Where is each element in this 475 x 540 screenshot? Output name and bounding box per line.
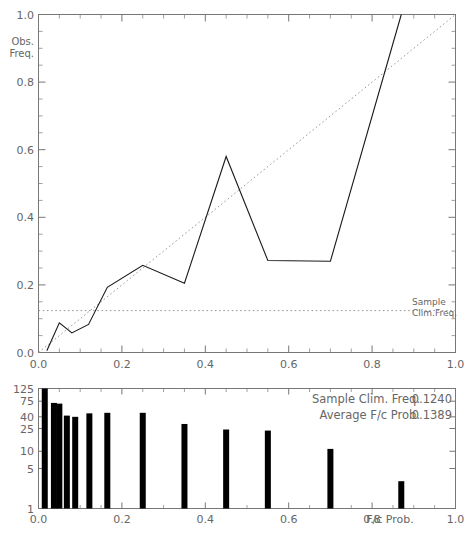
lower-major-ticks — [39, 389, 456, 509]
lower-plot-frame — [39, 389, 456, 509]
upper-ytick-label: 1.0 — [17, 9, 35, 22]
lower-ytick-label: 5 — [27, 463, 34, 476]
lower-xtick-label: 0.4 — [197, 513, 215, 526]
histogram-bar — [265, 431, 271, 509]
histogram-bar — [64, 416, 70, 509]
upper-xtick-labels: 0.00.20.40.60.81.0 — [30, 358, 465, 371]
stat-average-fc-prob-value: 0.1389 — [412, 408, 452, 422]
histogram-bar — [86, 413, 92, 508]
lower-ytick-labels: 1510254075125 — [13, 383, 34, 516]
reliability-curve — [47, 15, 401, 351]
lower-panel: 1510254075125 0.00.20.40.60.81.0 F/c Pro… — [13, 383, 464, 527]
upper-xtick-label: 0.0 — [30, 358, 48, 371]
upper-xtick-label: 0.8 — [363, 358, 381, 371]
upper-ytick-label: 0.2 — [17, 279, 35, 292]
lower-ytick-label: 10 — [20, 445, 34, 458]
histogram-bar — [140, 413, 146, 509]
histogram-bar — [398, 481, 404, 508]
upper-ytick-labels: 0.00.20.40.60.81.0 — [17, 9, 35, 360]
stat-sample-clim-freq-value: 0.1240 — [412, 392, 452, 406]
reliability-diagram-figure: 0.00.20.40.60.81.0 0.00.20.40.60.81.0 Ob… — [0, 0, 475, 540]
upper-yaxis-name-line2: Freq. — [9, 48, 34, 59]
upper-xtick-label: 0.2 — [113, 358, 131, 371]
clim-freq-annotation-line2: Clim.Freq. — [412, 308, 457, 318]
figure-canvas: 0.00.20.40.60.81.0 0.00.20.40.60.81.0 Ob… — [0, 0, 475, 540]
lower-ytick-label: 125 — [13, 383, 34, 396]
upper-ytick-label: 0.8 — [17, 76, 35, 89]
stat-average-fc-prob-label: Average F/c Prob. — [319, 408, 420, 422]
stat-sample-clim-freq-label: Sample Clim. Freq. — [312, 392, 420, 406]
histogram-bar — [51, 403, 57, 509]
lower-xtick-label: 0.2 — [113, 513, 131, 526]
lower-ytick-label: 75 — [20, 395, 34, 408]
upper-xtick-label: 0.6 — [280, 358, 298, 371]
histogram-bar — [42, 389, 48, 509]
histogram-bar — [327, 449, 333, 509]
upper-panel: 0.00.20.40.60.81.0 0.00.20.40.60.81.0 Ob… — [9, 9, 464, 372]
perfect-reliability-diagonal — [39, 15, 456, 353]
clim-freq-annotation-line1: Sample — [412, 297, 446, 307]
lower-xtick-label: 0.0 — [30, 513, 48, 526]
histogram-bar — [104, 413, 110, 509]
histogram-bars — [42, 389, 405, 509]
histogram-bar — [181, 424, 187, 509]
lower-ytick-label: 25 — [20, 423, 34, 436]
lower-xtick-label: 1.0 — [447, 513, 465, 526]
histogram-bar — [72, 417, 78, 509]
lower-ytick-label: 40 — [20, 411, 34, 424]
lower-minor-ticks — [59, 389, 434, 509]
upper-xtick-label: 0.4 — [197, 358, 215, 371]
upper-ytick-label: 0.4 — [17, 211, 35, 224]
histogram-bar — [223, 430, 229, 509]
lower-xaxis-name: F/c Prob. — [366, 513, 414, 526]
upper-xtick-label: 1.0 — [447, 358, 465, 371]
lower-xtick-label: 0.6 — [280, 513, 298, 526]
upper-yaxis-name-line1: Obs. — [11, 36, 34, 47]
histogram-bar — [56, 404, 62, 509]
upper-ytick-label: 0.6 — [17, 144, 35, 157]
